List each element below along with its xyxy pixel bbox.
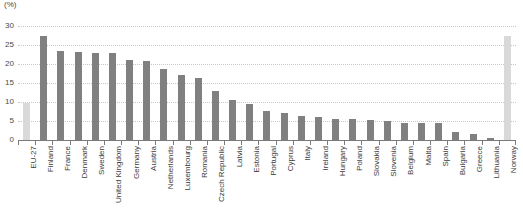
bar-slot — [70, 26, 87, 140]
category-label-slot: Spain — [430, 146, 447, 208]
bar-slot — [258, 26, 275, 140]
bar — [126, 60, 133, 140]
y-axis-tick-label: 5 — [0, 117, 14, 125]
x-axis-tick — [121, 140, 138, 145]
category-label-slot: Poland — [344, 146, 361, 208]
category-label-slot: Slovakia — [361, 146, 378, 208]
category-label-slot: Bulgaria — [447, 146, 464, 208]
bar — [418, 123, 425, 140]
category-label-slot: Latvia — [224, 146, 241, 208]
category-label-slot: Slovenia — [379, 146, 396, 208]
bar — [195, 78, 202, 140]
bar — [92, 53, 99, 140]
y-axis-tick-label: 30 — [0, 22, 14, 30]
bar-slot — [190, 26, 207, 140]
bar — [332, 119, 339, 140]
bar-slot — [155, 26, 172, 140]
bar-slot — [121, 26, 138, 140]
category-label-slot: Norway — [499, 146, 516, 208]
bar-slot — [310, 26, 327, 140]
x-axis-tick — [499, 140, 516, 145]
bar — [281, 113, 288, 140]
bar-slot — [52, 26, 69, 140]
x-axis-tick — [430, 140, 447, 145]
bar-slot — [35, 26, 52, 140]
bar-slot — [327, 26, 344, 140]
category-label-slot: EU-27 — [18, 146, 35, 208]
bar — [298, 116, 305, 140]
bar-series — [18, 26, 516, 140]
category-label-slot: Ireland — [310, 146, 327, 208]
bar-slot — [276, 26, 293, 140]
bar-slot — [138, 26, 155, 140]
bar-slot — [413, 26, 430, 140]
bar-slot — [293, 26, 310, 140]
bar-slot — [104, 26, 121, 140]
category-label-slot: Netherlands — [155, 146, 172, 208]
bar — [229, 100, 236, 140]
bar-slot — [207, 26, 224, 140]
x-axis-tick — [482, 140, 499, 145]
x-axis-tick — [18, 140, 35, 145]
bar — [504, 36, 511, 140]
category-label-slot: France — [52, 146, 69, 208]
x-axis-category-labels: EU-27FinlandFranceDenmarkSwedenUnited Ki… — [18, 146, 516, 208]
x-axis-tick — [190, 140, 207, 145]
category-label-slot: Czech Republic — [207, 146, 224, 208]
bar-slot — [447, 26, 464, 140]
x-axis-tick — [413, 140, 430, 145]
bar-slot — [499, 26, 516, 140]
bar-slot — [241, 26, 258, 140]
y-axis-tick-label: 15 — [0, 79, 14, 87]
bar — [349, 119, 356, 140]
bar — [178, 75, 185, 140]
category-label-slot: Romania — [190, 146, 207, 208]
bar — [246, 104, 253, 140]
category-label-slot: Portugal — [258, 146, 275, 208]
bar — [452, 132, 459, 140]
category-label-slot: Sweden — [87, 146, 104, 208]
bar-slot — [430, 26, 447, 140]
category-label-slot: Denmark — [70, 146, 87, 208]
x-axis-tick — [379, 140, 396, 145]
x-axis-tick — [138, 140, 155, 145]
x-axis-tick — [87, 140, 104, 145]
bar — [315, 117, 322, 140]
x-axis-tick — [327, 140, 344, 145]
bar-slot — [18, 26, 35, 140]
x-axis-tick — [35, 140, 52, 145]
bar — [160, 69, 167, 140]
y-axis-unit-label: (%) — [4, 0, 16, 10]
y-axis-tick-label: 20 — [0, 60, 14, 68]
bar-slot — [464, 26, 481, 140]
bar — [57, 51, 64, 140]
x-axis-tick — [70, 140, 87, 145]
x-axis-tick — [258, 140, 275, 145]
bar — [109, 53, 116, 140]
x-axis-tick — [310, 140, 327, 145]
x-axis-tick — [293, 140, 310, 145]
category-label-slot: Austria — [138, 146, 155, 208]
x-axis-tick — [173, 140, 190, 145]
x-axis-tick — [241, 140, 258, 145]
y-axis-tick-label: 10 — [0, 98, 14, 106]
bar-slot — [361, 26, 378, 140]
category-label-slot: Finland — [35, 146, 52, 208]
bar — [23, 103, 30, 140]
x-axis-tick — [344, 140, 361, 145]
category-label-slot: United Kingdom — [104, 146, 121, 208]
bar-chart: (%) 051015202530 EU-27FinlandFranceDenma… — [0, 0, 523, 209]
bar-slot — [224, 26, 241, 140]
category-label-slot: Greece — [464, 146, 481, 208]
category-label-slot: Belgium — [396, 146, 413, 208]
x-axis-tick — [207, 140, 224, 145]
x-axis-tick — [447, 140, 464, 145]
x-axis-tick — [52, 140, 69, 145]
bar-slot — [482, 26, 499, 140]
x-axis-tick — [155, 140, 172, 145]
bar-slot — [379, 26, 396, 140]
category-label-slot: Malta — [413, 146, 430, 208]
bar — [212, 91, 219, 140]
y-axis-tick-label: 25 — [0, 41, 14, 49]
x-axis-tick — [361, 140, 378, 145]
